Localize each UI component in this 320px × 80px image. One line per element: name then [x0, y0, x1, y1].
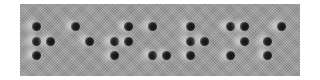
braille-cell-s	[263, 4, 291, 76]
braille-dot-5	[85, 37, 94, 46]
braille-cell-r	[32, 4, 60, 76]
braille-dot-1	[186, 22, 195, 31]
braille-dot-2	[263, 37, 272, 46]
braille-dot-3	[148, 51, 157, 60]
braille-cell-t	[110, 4, 138, 76]
braille-cell-n	[226, 4, 254, 76]
braille-dot-3	[110, 51, 119, 60]
braille-dot-2	[186, 37, 195, 46]
braille-dot-3	[263, 51, 272, 60]
braille-dot-3	[32, 51, 41, 60]
braille-dot-3	[226, 51, 235, 60]
braille-dot-2	[110, 37, 119, 46]
braille-dot-5	[46, 37, 55, 46]
braille-cell-r	[186, 4, 214, 76]
braille-dot-4	[277, 22, 286, 31]
braille-dot-1	[71, 22, 80, 31]
braille-cell-e	[71, 4, 99, 76]
braille-dot-5	[240, 37, 249, 46]
braille-dot-4	[240, 22, 249, 31]
braille-cell-u	[148, 4, 176, 76]
braille-panel: returns	[20, 4, 300, 76]
braille-dot-6	[162, 51, 171, 60]
braille-dot-1	[148, 22, 157, 31]
braille-dot-1	[226, 22, 235, 31]
braille-dot-5	[124, 37, 133, 46]
braille-dot-1	[32, 22, 41, 31]
braille-dot-4	[124, 22, 133, 31]
braille-dot-3	[186, 51, 195, 60]
braille-dot-5	[200, 37, 209, 46]
braille-text: returns	[20, 4, 21, 5]
braille-dot-2	[32, 37, 41, 46]
